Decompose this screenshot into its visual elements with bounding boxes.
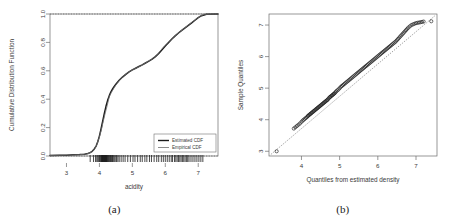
y-axis-title: Cumulative Distribution Function (8, 39, 15, 131)
cdf-plot: 345670.00.20.40.60.81.0acidityCumulative… (0, 0, 228, 195)
x-axis-title: Quantiles from estimated density (306, 176, 400, 184)
legend-label: Estimated CDF (172, 138, 203, 143)
y-tick-label: 5 (257, 86, 264, 90)
panel-b-caption: (b) (229, 203, 457, 215)
y-tick-label: 4 (257, 117, 264, 121)
legend-label: Empirical CDF (172, 145, 202, 150)
x-tick-label: 7 (197, 169, 201, 176)
panel-a: 345670.00.20.40.60.81.0acidityCumulative… (0, 0, 229, 217)
x-tick-label: 6 (164, 169, 168, 176)
x-tick-label: 4 (98, 169, 102, 176)
x-tick-label: 3 (65, 169, 69, 176)
y-tick-label: 0.6 (39, 66, 46, 75)
x-tick-label: 4 (299, 162, 303, 169)
y-tick-label: 6 (257, 54, 264, 58)
x-tick-label: 5 (131, 169, 135, 176)
x-axis-title: acidity (125, 183, 144, 191)
y-tick-label: 7 (257, 23, 264, 27)
figure-container: 345670.00.20.40.60.81.0acidityCumulative… (0, 0, 457, 217)
y-tick-label: 0.8 (39, 38, 46, 47)
y-tick-label: 3 (257, 149, 264, 153)
x-tick-label: 5 (337, 162, 341, 169)
y-tick-label: 1.0 (39, 9, 46, 18)
panel-b: 456734567Quantiles from estimated densit… (229, 0, 457, 217)
y-tick-label: 0.4 (39, 94, 46, 103)
qq-plot: 456734567Quantiles from estimated densit… (229, 0, 457, 195)
panel-a-caption: (a) (0, 203, 229, 215)
x-tick-label: 7 (414, 162, 418, 169)
legend: Estimated CDFEmpirical CDF (154, 134, 216, 152)
x-tick-label: 6 (376, 162, 380, 169)
y-axis-title: Sample Quantiles (237, 60, 245, 110)
y-tick-label: 0.0 (39, 151, 46, 160)
y-tick-label: 0.2 (39, 123, 46, 132)
